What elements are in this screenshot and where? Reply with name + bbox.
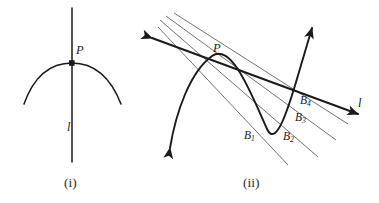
panel-i-graphics xyxy=(24,8,121,162)
label-B2-base: B xyxy=(283,130,290,142)
panel-ii-label-P: P xyxy=(213,42,221,55)
label-B3-subscript: 3 xyxy=(302,116,306,125)
panel-ii-graphics xyxy=(152,13,358,165)
panel-ii-label-l: l xyxy=(358,97,361,110)
label-B4-base: B xyxy=(300,94,307,106)
panel-i-point-P-marker xyxy=(69,60,75,66)
figure-container: P l P l B1 B2 B3 B4 (i) (ii) xyxy=(0,0,379,203)
panel-ii-label-B3: B3 xyxy=(295,112,306,125)
label-B4-subscript: 4 xyxy=(307,99,311,108)
panel-i-label-l: l xyxy=(67,121,70,134)
label-B3-base: B xyxy=(295,111,302,123)
panel-ii-curve xyxy=(170,28,312,148)
panel-ii-label-B4: B4 xyxy=(300,95,311,108)
panel-ii-label-B1: B1 xyxy=(244,130,255,143)
label-B2-subscript: 2 xyxy=(290,135,294,144)
label-B1-subscript: 1 xyxy=(251,134,255,143)
figure-canvas xyxy=(0,0,379,203)
panel-i-caption: (i) xyxy=(64,176,77,190)
panel-ii-caption: (ii) xyxy=(243,176,260,190)
label-B1-base: B xyxy=(244,129,251,141)
panel-i-label-P: P xyxy=(76,44,84,57)
panel-ii-label-B2: B2 xyxy=(283,131,294,144)
